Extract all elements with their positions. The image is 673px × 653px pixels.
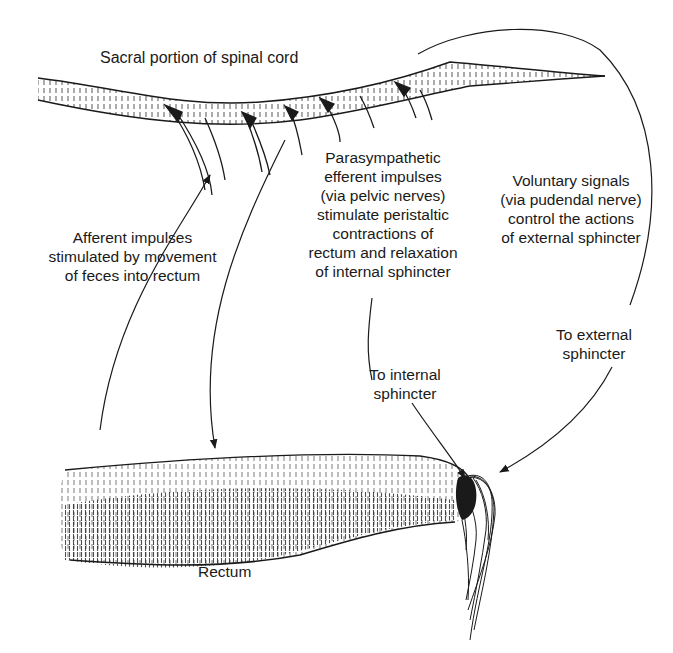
label-line: stimulate peristaltic [300, 205, 466, 224]
label-line: To external [548, 325, 640, 344]
label-parasympathetic: Parasympathetic efferent impulses (via p… [300, 148, 466, 281]
label-line: Parasympathetic [300, 148, 466, 167]
label-line: stimulated by movement [35, 247, 230, 266]
label-line: sphincter [548, 344, 640, 363]
label-rectum: Rectum [198, 562, 251, 581]
label-line: sphincter [360, 384, 450, 403]
label-spinal-cord: Sacral portion of spinal cord [100, 48, 298, 67]
rectum [58, 454, 471, 567]
label-line: (via pudendal nerve) [486, 190, 656, 209]
label-voluntary-signals: Voluntary signals (via pudendal nerve) c… [486, 171, 656, 247]
label-line: Voluntary signals [486, 171, 656, 190]
label-line: rectum and relaxation [300, 243, 466, 262]
diagram-canvas: Sacral portion of spinal cord Afferent i… [0, 0, 673, 653]
label-line: contractions of [300, 224, 466, 243]
label-line: of external sphincter [486, 228, 656, 247]
label-line: (via pelvic nerves) [300, 186, 466, 205]
label-line: of feces into rectum [35, 266, 230, 285]
label-line: control the actions [486, 209, 656, 228]
label-line: Afferent impulses [35, 228, 230, 247]
parasympathetic-pathway [210, 140, 285, 448]
spinal-cord [38, 29, 605, 124]
afferent-pathway [100, 175, 210, 430]
label-line: of internal sphincter [300, 262, 466, 281]
label-to-external-sphincter: To external sphincter [548, 325, 640, 363]
voluntary-pathway [500, 50, 652, 472]
label-to-internal-sphincter: To internal sphincter [360, 365, 450, 403]
label-line: To internal [360, 365, 450, 384]
label-line: efferent impulses [300, 167, 466, 186]
label-afferent-impulses: Afferent impulses stimulated by movement… [35, 228, 230, 285]
